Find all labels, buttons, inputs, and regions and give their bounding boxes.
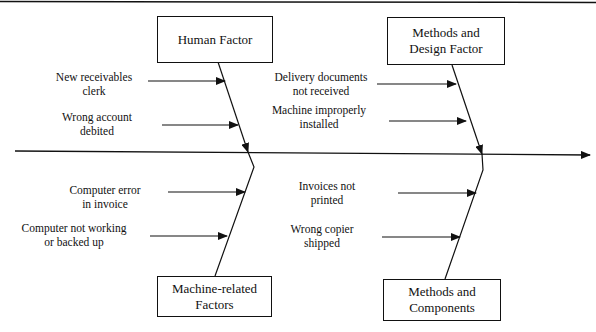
cause-wrong-account-debited: Wrong account debited	[47, 110, 147, 138]
category-box-human-factor: Human Factor	[157, 16, 273, 63]
spine-arrow	[15, 151, 590, 155]
category-label: Methods and	[408, 284, 476, 300]
category-label: Components	[409, 300, 475, 316]
category-label: Design Factor	[409, 41, 482, 57]
cause-machine-improperly-installed: Machine improperly installed	[264, 103, 374, 131]
category-label: Factors	[195, 297, 233, 313]
cause-computer-error-invoice: Computer error in invoice	[55, 183, 155, 211]
category-label: Machine-related	[172, 281, 257, 297]
cause-computer-not-working: Computer not working or backed up	[14, 221, 134, 249]
category-box-methods-design: Methods and Design Factor	[387, 17, 505, 65]
cause-wrong-copier-shipped: Wrong copier shipped	[282, 222, 362, 250]
top-border	[0, 2, 596, 3]
bone-human	[218, 62, 248, 152]
cause-delivery-documents: Delivery documents not received	[266, 70, 376, 98]
category-label: Human Factor	[178, 32, 253, 48]
category-box-methods-components: Methods and Components	[383, 279, 501, 321]
fishbone-lines	[0, 0, 596, 332]
category-box-machine-related: Machine-related Factors	[157, 276, 272, 317]
bone-methods-design	[452, 65, 482, 154]
bone-machine	[215, 152, 254, 276]
category-label: Methods and	[412, 25, 480, 41]
bone-methods-components	[445, 154, 483, 279]
cause-new-receivables-clerk: New receivables clerk	[44, 70, 144, 98]
cause-invoices-not-printed: Invoices not printed	[287, 179, 367, 207]
